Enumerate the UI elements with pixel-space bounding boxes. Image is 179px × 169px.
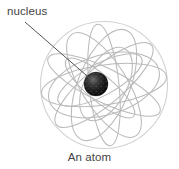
nucleus-group xyxy=(84,72,108,96)
figure-caption: An atom xyxy=(0,152,179,164)
nucleus-label: nucleus xyxy=(7,6,47,18)
nucleus-leader-line xyxy=(25,22,91,79)
atom-illustration xyxy=(0,0,179,169)
atom-diagram: nucleus An atom xyxy=(0,0,179,169)
